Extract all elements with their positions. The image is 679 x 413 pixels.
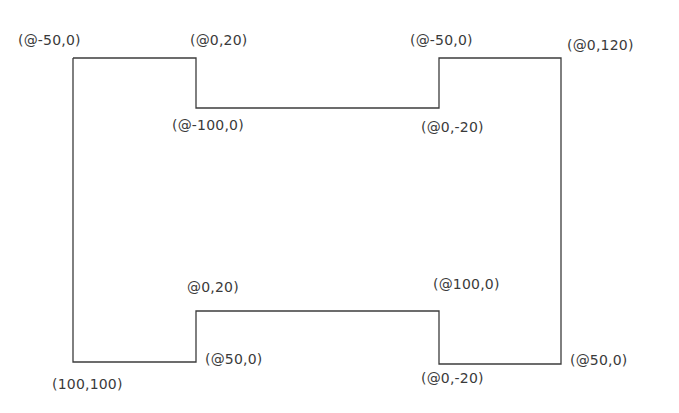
label-bottom-left-corner: (100,100) <box>52 376 123 392</box>
label-bottom-left-notch-corner: (@50,0) <box>205 351 263 367</box>
label-top-right-corner: (@0,120) <box>567 37 634 53</box>
label-top-left-corner: (@-50,0) <box>18 32 81 48</box>
shape-outline <box>73 58 561 364</box>
label-bottom-right-notch-corner: (@0,-20) <box>421 370 484 386</box>
label-top-left-notch-bottom: (@-100,0) <box>172 117 244 133</box>
label-top-left-notch-corner: (@0,20) <box>190 32 248 48</box>
label-bottom-left-notch-top: @0,20) <box>187 279 239 295</box>
label-bottom-right-corner: (@50,0) <box>570 352 628 368</box>
label-top-right-notch-bottom: (@0,-20) <box>421 119 484 135</box>
label-bottom-right-notch-top: (@100,0) <box>433 276 500 292</box>
label-top-right-notch-top: (@-50,0) <box>410 32 473 48</box>
